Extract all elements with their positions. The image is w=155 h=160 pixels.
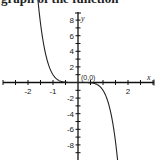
y-tick-label: -4 (67, 110, 75, 119)
y-axis-label: y (80, 14, 85, 23)
x-tick-label: -2 (24, 87, 32, 96)
y-tick-label: 6 (70, 32, 75, 41)
origin-label: (0,0) (81, 74, 95, 82)
x-tick-label: -1 (49, 87, 57, 96)
x-axis-label: x (146, 73, 151, 82)
y-tick-label: -8 (67, 141, 75, 150)
y-tick-label: 2 (70, 63, 75, 72)
y-tick-label: -2 (67, 94, 75, 103)
y-tick-label: 8 (70, 16, 75, 25)
y-tick-label: -6 (67, 125, 75, 134)
function-plot: -2-128642-2-4-6-8xy(0,0) (0, 0, 155, 160)
y-tick-label: 4 (70, 47, 75, 56)
x-tick-label: 2 (126, 87, 131, 96)
